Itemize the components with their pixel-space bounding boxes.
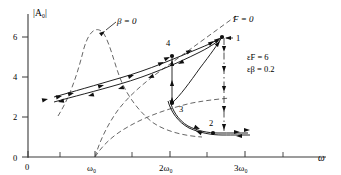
arrow-down bbox=[222, 106, 226, 112]
point-label-3: 3 bbox=[179, 104, 183, 114]
x-tick-label-w0: ω₀ bbox=[87, 163, 96, 173]
unstable-branch-group bbox=[172, 37, 222, 103]
point-marker-2 bbox=[211, 131, 215, 135]
arrow-left bbox=[58, 99, 65, 104]
arrow-up bbox=[170, 80, 174, 86]
beta-zero-label: β = 0 bbox=[116, 16, 137, 26]
point-marker-1 bbox=[220, 35, 224, 39]
unstable-branch bbox=[172, 37, 222, 103]
curve-annotations-group: β = 0 F = 0 bbox=[99, 14, 254, 36]
y-tick-label-0: 0 bbox=[13, 153, 17, 163]
response-curve-plot: |A₀| ω 0 2 4 6 0 ω₀ 2ω₀ 3ω₀ bbox=[0, 0, 341, 175]
y-tick-label-4: 4 bbox=[13, 72, 18, 82]
f-zero-label: F = 0 bbox=[232, 14, 254, 24]
dashed-curves-group bbox=[58, 16, 236, 157]
point-label-1: 1 bbox=[236, 33, 240, 43]
arrow-right bbox=[42, 97, 49, 102]
arrow-up bbox=[170, 60, 174, 66]
upper-branch-group bbox=[54, 37, 222, 102]
jump-lines-group bbox=[172, 38, 224, 131]
y-tick-label-6: 6 bbox=[13, 32, 17, 42]
y-axis-label: |A₀| bbox=[33, 8, 47, 18]
y-tick-labels: 0 2 4 6 bbox=[13, 32, 18, 163]
y-tick-label-2: 2 bbox=[13, 112, 17, 122]
parameter-annotation-block: εF = 6 εβ = 0.2 bbox=[247, 52, 275, 74]
x-tick-label-2w0: 2ω₀ bbox=[159, 163, 173, 173]
arrow-left bbox=[225, 36, 231, 40]
arrow-left bbox=[87, 92, 94, 98]
x-tick-labels: 0 ω₀ 2ω₀ 3ω₀ bbox=[25, 162, 248, 173]
point-marker-3 bbox=[170, 101, 174, 105]
arrow-left bbox=[117, 85, 124, 91]
arrow-down bbox=[222, 86, 226, 92]
arrow-down bbox=[222, 46, 226, 52]
arrow-down bbox=[222, 66, 226, 72]
point-label-4: 4 bbox=[166, 38, 171, 48]
upper-response-branch-twin bbox=[54, 38, 222, 102]
upper-response-branch bbox=[54, 37, 222, 97]
param-eb-label: εβ = 0.2 bbox=[247, 64, 275, 74]
beta-zero-leader bbox=[106, 22, 116, 30]
point-labels-group: 1 2 3 4 bbox=[166, 33, 240, 128]
y-axis-ticks bbox=[22, 37, 28, 157]
x-tick-label-3w0: 3ω₀ bbox=[234, 163, 248, 173]
arrowheads-group bbox=[42, 36, 250, 138]
figure-container: |A₀| ω 0 2 4 6 0 ω₀ 2ω₀ 3ω₀ bbox=[0, 0, 341, 175]
beta-zero-curve bbox=[58, 30, 202, 137]
x-axis-label: ω bbox=[318, 153, 325, 163]
x-axis-ticks bbox=[28, 151, 283, 157]
point-marker-4 bbox=[170, 54, 174, 58]
arrow-down bbox=[222, 124, 226, 130]
x-tick-label-0: 0 bbox=[25, 162, 29, 172]
param-ef-label: εF = 6 bbox=[247, 52, 269, 62]
arrow-right bbox=[244, 128, 250, 132]
point-label-2: 2 bbox=[209, 118, 213, 128]
